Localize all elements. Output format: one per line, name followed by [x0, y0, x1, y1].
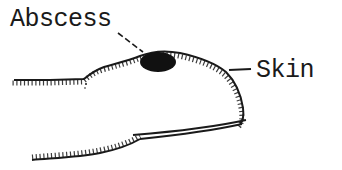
- abscess: [140, 52, 176, 72]
- finger-upper-outline: [13, 52, 244, 127]
- finger-lower-outline: [32, 136, 140, 160]
- skin-leader-line: [229, 69, 251, 70]
- abscess-label: Abscess: [10, 7, 112, 32]
- abscess-leader-line: [118, 33, 143, 52]
- skin-label: Skin: [256, 58, 314, 83]
- knuckle-marks: [84, 83, 87, 89]
- fingernail: [133, 120, 246, 139]
